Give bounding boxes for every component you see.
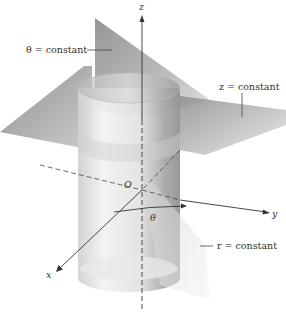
r-cylinder-label: r = constant [217, 241, 277, 251]
origin-label: O [124, 180, 132, 190]
z-axis-label: z [139, 2, 144, 12]
y-axis-solid [180, 200, 266, 212]
y-axis-arrowhead [263, 210, 271, 215]
z-plane-label: z = constant [219, 82, 279, 92]
x-axis-label: x [46, 270, 51, 280]
theta-arc-arrowhead [181, 204, 187, 209]
theta-plane-label: θ = constant [26, 45, 87, 55]
theta-angle-label: θ [150, 213, 156, 223]
y-axis-label: y [272, 209, 277, 219]
cylindrical-coordinates-diagram: z θ = constant z = constant O θ y r = co… [0, 0, 286, 319]
z-plane-right [180, 96, 286, 155]
z-axis-arrowhead [140, 15, 145, 22]
